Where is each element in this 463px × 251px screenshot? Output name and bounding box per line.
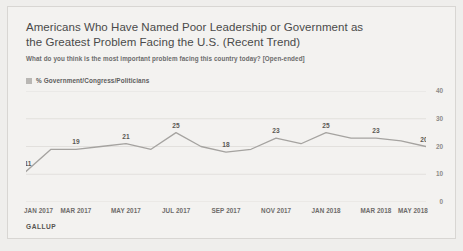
data-point-label: 20 — [420, 136, 426, 143]
data-point-label: 25 — [172, 122, 180, 129]
legend-swatch-government — [26, 78, 32, 84]
y-axis-tick-label: 20 — [425, 143, 443, 150]
x-axis-tick-label: MAY 2017 — [111, 207, 141, 214]
legend-label-government: % Government/Congress/Politicians — [36, 77, 149, 84]
x-axis-tick-label: SEP 2017 — [212, 207, 241, 214]
y-axis-tick-label: 10 — [425, 170, 443, 177]
x-axis-tick-label: JAN 2017 — [24, 207, 53, 214]
x-axis-tick-label: MAR 2017 — [61, 207, 92, 214]
x-axis-tick-label: MAY 2018 — [398, 207, 428, 214]
data-point-label: 25 — [322, 122, 330, 129]
plot-area: 111921251823252320 — [26, 91, 426, 202]
x-axis-tick-label: MAR 2018 — [361, 207, 392, 214]
x-axis-tick-label: JAN 2018 — [312, 207, 341, 214]
y-axis-tick-label: 40 — [425, 87, 443, 94]
source-attribution: GALLUP — [26, 223, 56, 230]
data-line-government — [26, 133, 426, 172]
chart-legend: % Government/Congress/Politicians — [26, 77, 149, 84]
line-chart-svg: 111921251823252320 — [26, 91, 426, 202]
y-axis-tick-label: 0 — [425, 198, 443, 205]
chart-subtitle: What do you think is the most important … — [26, 55, 426, 63]
data-point-label: 19 — [72, 138, 80, 145]
data-point-label: 23 — [272, 127, 280, 134]
x-axis-tick-label: NOV 2017 — [261, 207, 291, 214]
x-axis-tick-label: JUL 2017 — [162, 207, 190, 214]
data-point-label: 11 — [26, 160, 32, 167]
chart-card: Americans Who Have Named Poor Leadership… — [7, 6, 456, 239]
data-point-label: 23 — [372, 127, 380, 134]
y-axis-tick-label: 30 — [425, 115, 443, 122]
data-point-label: 21 — [122, 133, 130, 140]
chart-title: Americans Who Have Named Poor Leadership… — [26, 20, 376, 49]
data-point-label: 18 — [222, 141, 230, 148]
